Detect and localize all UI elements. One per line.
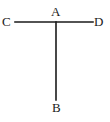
point-label-a: A (51, 5, 60, 18)
point-label-b: B (52, 101, 61, 114)
point-label-d: D (94, 15, 103, 28)
point-label-c: C (2, 15, 11, 28)
geometry-figure: A B C D (0, 0, 110, 122)
